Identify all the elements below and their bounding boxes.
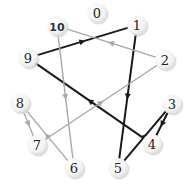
node-label: 8 [16, 96, 24, 111]
node-label: 2 [161, 53, 169, 68]
edge-5-to-3 [124, 111, 166, 161]
edge-4-to-9 [35, 63, 144, 139]
node-5: 5 [108, 158, 130, 180]
edge-1-to-5 [119, 34, 136, 159]
node-9: 9 [18, 48, 40, 70]
edge-7-to-2 [44, 65, 157, 140]
edge-10-to-6 [58, 35, 73, 159]
node-4: 4 [142, 134, 164, 156]
edge-8-to-7 [23, 111, 33, 136]
node-label: 10 [49, 21, 65, 34]
node-0: 0 [87, 3, 109, 25]
node-label: 4 [148, 137, 156, 152]
node-label: 0 [93, 6, 101, 21]
node-label: 1 [133, 18, 141, 33]
node-label: 5 [114, 161, 122, 176]
directed-graph: 012345678910 [0, 0, 196, 193]
node-6: 6 [64, 158, 86, 180]
node-label: 6 [70, 161, 78, 176]
node-10: 10 [47, 16, 69, 38]
node-label: 7 [33, 138, 41, 153]
node-label: 3 [168, 97, 176, 112]
node-1: 1 [127, 15, 149, 37]
node-2: 2 [155, 50, 177, 72]
nodes-layer: 012345678910 [10, 3, 184, 180]
node-label: 9 [24, 51, 32, 66]
node-8: 8 [10, 93, 32, 115]
node-7: 7 [27, 135, 49, 157]
